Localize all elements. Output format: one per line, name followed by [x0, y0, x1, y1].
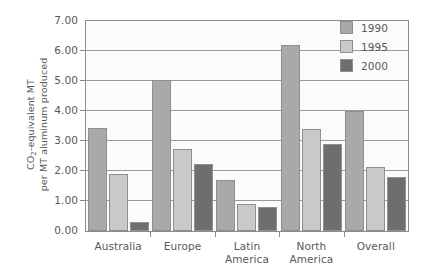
legend-item-1995: 1995	[340, 37, 388, 56]
bar-1990-latin-america	[216, 180, 235, 231]
bar-group	[215, 21, 279, 231]
y-tick-mark	[80, 110, 85, 111]
x-axis-label-line: North	[279, 240, 343, 253]
y-tick-mark	[80, 50, 85, 51]
bar-1990-australia	[88, 128, 107, 232]
bar-group	[150, 21, 214, 231]
x-axis-label-north-america: NorthAmerica	[279, 240, 343, 265]
y-tick-mark	[80, 140, 85, 141]
bar-2000-overall	[387, 177, 406, 231]
legend-item-2000: 2000	[340, 56, 388, 75]
x-axis-label-line: America	[279, 253, 343, 266]
bar-2000-europe	[194, 164, 213, 232]
bar-1995-europe	[173, 149, 192, 232]
y-tick-label: 4.00	[32, 105, 78, 115]
bar-group	[86, 21, 150, 231]
x-tick-mark	[344, 232, 345, 237]
legend-swatch-2000	[340, 59, 353, 72]
legend-item-1990: 1990	[340, 18, 388, 37]
y-tick-label: 3.00	[32, 135, 78, 145]
x-tick-mark	[279, 232, 280, 237]
x-axis-label-latin-america: LatinAmerica	[215, 240, 279, 265]
bar-2000-latin-america	[258, 207, 277, 231]
legend-label-1990: 1990	[361, 22, 388, 34]
bar-1990-europe	[152, 80, 171, 232]
y-tick-label: 2.00	[32, 165, 78, 175]
x-axis-label-line: Latin	[215, 240, 279, 253]
x-axis-label-line: Overall	[344, 240, 408, 253]
bar-1990-overall	[345, 111, 364, 231]
bar-1990-north-america	[281, 45, 300, 231]
bar-1995-latin-america	[237, 204, 256, 231]
bar-group	[279, 21, 343, 231]
x-axis-label-line: Australia	[86, 240, 150, 253]
bar-1995-north-america	[302, 129, 321, 231]
legend-swatch-1990	[340, 21, 353, 34]
y-tick-mark	[80, 200, 85, 201]
x-axis-label-australia: Australia	[86, 240, 150, 253]
bar-2000-north-america	[323, 144, 342, 231]
bar-1995-australia	[109, 174, 128, 231]
x-tick-mark	[215, 232, 216, 237]
x-axis-label-europe: Europe	[150, 240, 214, 253]
x-tick-mark	[150, 232, 151, 237]
x-axis-label-overall: Overall	[344, 240, 408, 253]
legend-swatch-1995	[340, 40, 353, 53]
chart-legend: 199019952000	[340, 18, 388, 75]
bar-chart: CO2-equivalent MT per MT aluminum produc…	[0, 0, 437, 278]
y-tick-label: 7.00	[32, 15, 78, 25]
legend-label-1995: 1995	[361, 41, 388, 53]
bar-1995-overall	[366, 167, 385, 232]
y-tick-label: 5.00	[32, 75, 78, 85]
x-axis-label-line: America	[215, 253, 279, 266]
legend-label-2000: 2000	[361, 60, 388, 72]
y-tick-mark	[80, 170, 85, 171]
bar-2000-australia	[130, 222, 149, 231]
y-axis-title-line1: CO2-equivalent MT	[25, 79, 36, 170]
y-tick-label: 6.00	[32, 45, 78, 55]
y-tick-label: 0.00	[32, 225, 78, 235]
y-tick-mark	[80, 80, 85, 81]
y-tick-label: 1.00	[32, 195, 78, 205]
x-axis-label-line: Europe	[150, 240, 214, 253]
